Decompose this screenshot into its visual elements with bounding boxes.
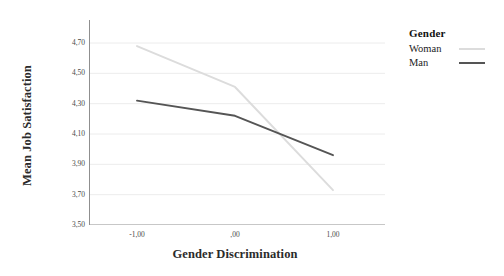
x-axis-title: Gender Discrimination <box>85 247 385 262</box>
y-axis-tick-labels: 4,704,504,304,103,903,703,50 <box>52 0 85 276</box>
legend-entry-label: Woman <box>409 43 459 54</box>
legend-entry-label: Man <box>409 57 459 68</box>
legend-entry-woman: Woman <box>409 42 504 55</box>
legend-color-swatch <box>459 62 485 64</box>
y-tick-label: 4,70 <box>55 39 85 47</box>
y-tick-label: 4,30 <box>55 100 85 108</box>
legend-entries: WomanMan <box>409 42 504 69</box>
x-tick-label: -1,00 <box>114 230 160 239</box>
y-tick-label: 3,50 <box>55 221 85 229</box>
x-tick-label: 1,00 <box>310 230 356 239</box>
x-tick-label: ,00 <box>212 230 258 239</box>
y-tick-label: 4,10 <box>55 130 85 138</box>
y-tick-label: 4,50 <box>55 69 85 77</box>
series-line-man <box>137 101 333 156</box>
legend: Gender WomanMan <box>409 27 504 70</box>
y-axis-title: Mean Job Satisfaction <box>20 36 35 216</box>
plot-canvas <box>89 20 385 225</box>
x-axis-tick-labels: -1,00,001,00 <box>89 230 385 244</box>
y-tick-label: 3,70 <box>55 191 85 199</box>
plot-area <box>89 20 385 225</box>
legend-title: Gender <box>409 27 504 39</box>
y-tick-label: 3,90 <box>55 160 85 168</box>
series-line-woman <box>137 46 333 190</box>
legend-color-swatch <box>459 48 485 50</box>
profile-plot: Mean Job Satisfaction 4,704,504,304,103,… <box>0 0 504 276</box>
legend-entry-man: Man <box>409 56 504 69</box>
